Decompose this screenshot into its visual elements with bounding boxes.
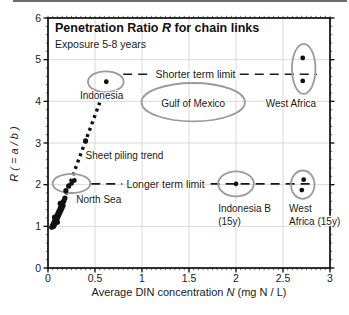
x-tick-label: 0.5 <box>88 272 103 284</box>
title-block: Penetration Ratio R for chain links Expo… <box>55 21 259 50</box>
gulf-of-mexico-label: Gulf of Mexico <box>161 98 225 109</box>
y-axis-label: R ( = a / b ) <box>8 104 20 204</box>
data-point <box>299 188 304 193</box>
data-point <box>62 195 67 200</box>
series-indonesia <box>104 79 109 84</box>
x-tick-label: 3 <box>327 272 333 284</box>
series-sheet-piling-point <box>83 138 88 143</box>
reference-line-longer-term-limit: Longer term limit <box>91 178 314 190</box>
xlabel-post: (mg N / L) <box>234 286 286 298</box>
xlabel-pre: Average DIN concentration <box>92 286 227 298</box>
indonesia-label: Indonesia <box>80 90 124 101</box>
data-point <box>83 138 88 143</box>
x-tick-label: 1.5 <box>182 272 197 284</box>
data-point <box>301 177 306 182</box>
longer-term-limit-label: Longer term limit <box>126 178 204 190</box>
x-tick-label: 2.5 <box>276 272 291 284</box>
series-indonesia-b-15y <box>234 181 239 186</box>
x-tick-labels: 00.511.522.53 <box>45 272 333 284</box>
chart-subtitle: Exposure 5-8 years <box>55 38 259 50</box>
data-point <box>234 181 239 186</box>
y-tick-label: 4 <box>35 95 41 107</box>
indonesia-b-label: Indonesia B(15y) <box>218 203 271 227</box>
chart-figure: 00.511.522.530123456Shorter term limitLo… <box>0 0 349 315</box>
data-point <box>104 79 109 84</box>
x-tick-label: 2 <box>233 272 239 284</box>
y-tick-label: 0 <box>35 262 41 274</box>
ellipse-west-africa <box>292 44 316 94</box>
x-tick-label: 0 <box>45 272 51 284</box>
shorter-term-limit-label: Shorter term limit <box>156 68 236 80</box>
reference-line-shorter-term-limit: Shorter term limit <box>123 68 317 80</box>
x-axis-label: Average DIN concentration N (mg N / L) <box>48 286 330 298</box>
data-point <box>63 188 68 193</box>
data-point <box>300 79 305 84</box>
north-sea-label: North Sea <box>76 194 121 205</box>
title-pre: Penetration Ratio <box>55 21 162 35</box>
x-tick-label: 1 <box>139 272 145 284</box>
data-point <box>300 56 305 61</box>
west-africa-label: West Africa <box>266 98 317 109</box>
y-tick-labels: 0123456 <box>35 12 41 274</box>
data-point <box>52 215 57 220</box>
y-tick-label: 1 <box>35 220 41 232</box>
west-africa-15y-label: WestAfrica (15y) <box>289 203 340 227</box>
chart-title: Penetration Ratio R for chain links <box>55 21 259 35</box>
data-point <box>72 178 77 183</box>
y-tick-label: 5 <box>35 53 41 65</box>
title-variable: R <box>162 21 171 35</box>
gridlines <box>48 18 330 268</box>
y-tick-label: 6 <box>35 12 41 24</box>
sheet-piling-trend-label: Sheet piling trend <box>86 150 164 161</box>
title-post: for chain links <box>171 21 259 35</box>
data-point <box>55 220 60 225</box>
y-tick-label: 2 <box>35 178 41 190</box>
y-tick-label: 3 <box>35 137 41 149</box>
data-point <box>58 201 63 206</box>
